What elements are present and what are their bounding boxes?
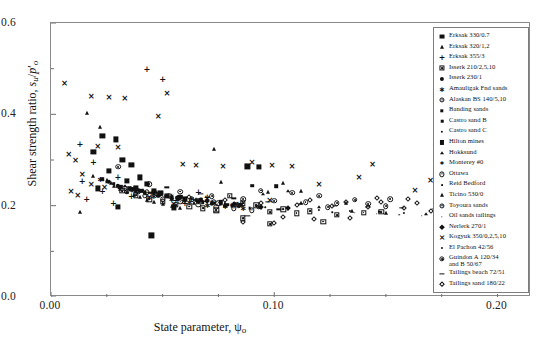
legend-item[interactable]: El Pachon 42/56 [437,243,526,253]
legend-marker-icon [437,149,447,158]
legend-item[interactable]: Reid Bedford [437,179,526,189]
legend-item-label: Monterey #0 [449,158,483,165]
legend-item-label: Erksak 330/0.7 [449,31,490,38]
legend-item[interactable]: Tailings beach 72/51 [437,268,526,278]
legend-item-label: Isserk 230/1 [449,73,482,80]
legend-item-label: Ticino 530/0 [449,190,483,197]
legend: Erksak 330/0.7Erksak 320/1,2+Erksak 355/… [433,27,529,293]
legend-item-label: Castro sand C [449,126,487,133]
legend-marker-icon [437,138,447,147]
x-tick-label: 0.00 [40,299,61,311]
legend-marker-icon [437,106,447,115]
legend-marker-icon: ∗ [437,85,447,94]
legend-item-label: Isserk 210/2,5,10 [449,63,495,70]
legend-item[interactable]: Nerlerk 270/1 [437,222,526,232]
legend-item[interactable]: Hokksund [437,148,526,158]
legend-item[interactable]: Castro sand C [437,126,526,136]
legend-item-label: Nerlerk 270/1 [449,222,486,229]
legend-item[interactable]: Castro sand B [437,116,526,126]
legend-item[interactable]: +Erksak 355/3 [437,52,526,62]
x-tick-label: 0.20 [486,299,507,311]
legend-item-label: Kogyuk 350/0,2,5,10 [449,232,506,239]
legend-item[interactable]: +Toyoura sands [437,201,526,211]
legend-item[interactable]: Banding sands [437,105,526,115]
x-tick-label: 0.10 [263,299,284,311]
legend-marker-icon [437,191,447,200]
legend-item-label: Erksak 320/1,2 [449,42,490,49]
y-axis-label: Shear strength ratio, su/p′o [25,0,40,249]
legend-marker-icon: × [437,170,447,179]
legend-item[interactable]: Guindon A 120/34 and B 50/67 [437,253,526,267]
legend-item[interactable]: Erksak 330/0.7 [437,31,526,41]
legend-item-label: Erksak 355/3 [449,52,485,59]
legend-item[interactable]: Isserk 230/1 [437,73,526,83]
legend-item[interactable]: Ticino 530/0 [437,190,526,200]
legend-marker-icon [437,269,447,278]
legend-item-label: Reid Bedford [449,179,485,186]
legend-item-label: Hilton mines [449,137,484,144]
legend-marker-icon [437,212,447,221]
legend-item-label: Oil sands tailings [449,211,496,218]
legend-marker-icon [437,74,447,83]
legend-item-label: Tailings beach 72/51 [449,268,505,275]
legend-item[interactable]: Oil sands tailings [437,211,526,221]
legend-item-label: Banding sands [449,105,488,112]
legend-marker-icon [437,223,447,232]
legend-item-label: Hokksund [449,148,477,155]
legend-item-label: Toyoura sands [449,201,488,208]
legend-item-label: Amauligak Fnd sands [449,84,507,91]
legend-marker-icon: ∗ [437,159,447,168]
legend-marker-icon [437,64,447,73]
legend-marker-icon: × [437,233,447,242]
legend-marker-icon: + [437,53,447,62]
legend-item[interactable]: ×Kogyuk 350/0,2,5,10 [437,232,526,242]
legend-item[interactable]: Erksak 320/1,2 [437,42,526,52]
legend-item[interactable]: ×Ottawa [437,169,526,179]
legend-item[interactable]: ∗Monterey #0 [437,158,526,168]
legend-marker-icon [437,32,447,41]
chart-figure: Shear strength ratio, su/p′o State param… [0,0,550,352]
legend-marker-icon [437,43,447,52]
legend-item[interactable]: ∗Amauligak Fnd sands [437,84,526,94]
legend-item[interactable]: Tailings sand 180/22 [437,279,526,289]
legend-item-label: El Pachon 42/56 [449,243,493,250]
legend-marker-icon: × [437,96,447,105]
legend-item[interactable]: Isserk 210/2,5,10 [437,63,526,73]
legend-item-label: Guindon A 120/34 and B 50/67 [449,253,499,267]
legend-marker-icon [437,254,447,263]
legend-item-label: Tailings sand 180/22 [449,279,505,286]
legend-marker-icon [437,280,447,289]
legend-marker-icon [437,127,447,136]
legend-item-label: Ottawa [449,169,468,176]
legend-item-label: Castro sand B [449,116,487,123]
legend-marker-icon [437,244,447,253]
legend-item[interactable]: ×Alaskan BS 140/5,10 [437,95,526,105]
x-axis-label: State parameter, ψo [50,320,350,335]
legend-marker-icon [437,117,447,126]
legend-marker-icon: + [437,202,447,211]
legend-item-label: Alaskan BS 140/5,10 [449,95,506,102]
legend-marker-icon [437,180,447,189]
legend-item[interactable]: Hilton mines [437,137,526,147]
